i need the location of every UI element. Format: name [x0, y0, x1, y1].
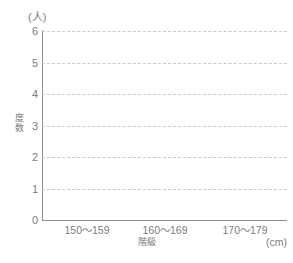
x-axis-tick-labels: 150〜159 160〜169 170〜179	[42, 224, 287, 238]
gridline-5	[42, 63, 287, 64]
y-tick-4: 4	[24, 89, 38, 100]
gridline-1	[42, 189, 287, 190]
y-tick-0: 0	[24, 215, 38, 226]
gridline-6	[42, 31, 287, 32]
y-tick-6: 6	[24, 26, 38, 37]
y-tick-3: 3	[24, 121, 38, 132]
gridline-3	[42, 126, 287, 127]
gridline-2	[42, 157, 287, 158]
y-tick-2: 2	[24, 152, 38, 163]
histogram-chart: (人) 度数 6 5 4 3 2 1 0 150〜159 160〜169 170…	[0, 0, 293, 263]
plot-area	[42, 31, 287, 220]
y-tick-5: 5	[24, 58, 38, 69]
x-axis-unit-label: (cm)	[266, 237, 287, 248]
x-tick-160-169: 160〜169	[142, 224, 187, 236]
y-tick-1: 1	[24, 184, 38, 195]
y-axis-tick-labels: 6 5 4 3 2 1 0	[22, 0, 38, 263]
x-axis-title: 階級	[0, 237, 293, 248]
x-tick-150-159: 150〜159	[64, 224, 109, 236]
gridline-4	[42, 94, 287, 95]
x-axis-line	[42, 220, 287, 221]
x-tick-170-179: 170〜179	[222, 224, 267, 236]
